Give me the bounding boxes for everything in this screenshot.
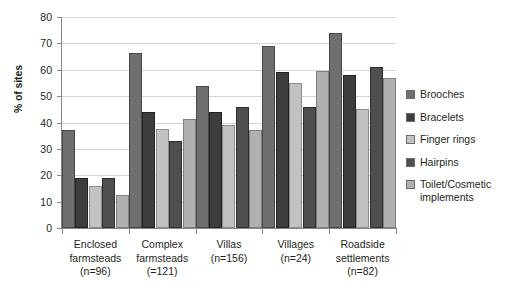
bar (383, 78, 396, 228)
legend-item-label: Bracelets (420, 111, 464, 124)
x-axis-line (61, 228, 397, 229)
bar-group (129, 17, 196, 228)
x-axis-tick-mark (262, 229, 263, 234)
bar (222, 125, 235, 228)
bar (262, 46, 275, 228)
legend-swatch-icon (406, 158, 415, 167)
x-axis-category-label: Roadsidesettlements(n=82) (323, 238, 402, 279)
bar (75, 178, 88, 228)
bar (276, 72, 289, 228)
chart-legend: BroochesBraceletsFinger ringsHairpinsToi… (406, 88, 528, 214)
legend-item: Finger rings (406, 133, 528, 146)
bar (289, 83, 302, 228)
y-axis-tick-label: 80 (28, 12, 52, 22)
bar (236, 107, 249, 228)
bar (356, 109, 369, 228)
y-axis-tick-label: 70 (28, 38, 52, 48)
bar (316, 71, 329, 228)
bar (156, 129, 169, 228)
y-axis-tick-label: 30 (28, 144, 52, 154)
y-axis-tick-label: 50 (28, 91, 52, 101)
legend-item-label: Toilet/Cosmetic implements (420, 178, 528, 204)
y-axis-tick-label: 0 (28, 223, 52, 233)
y-axis-tick-label: 20 (28, 170, 52, 180)
bar (116, 195, 129, 228)
bar (370, 67, 383, 228)
bar (169, 141, 182, 228)
legend-item: Brooches (406, 88, 528, 101)
bar-group (329, 17, 396, 228)
bar (329, 33, 342, 228)
x-axis-tick-mark (196, 229, 197, 234)
x-axis-label-line: settlements (323, 252, 402, 266)
legend-item-label: Finger rings (420, 133, 475, 146)
bar (89, 186, 102, 228)
legend-swatch-icon (406, 90, 415, 99)
bar (343, 75, 356, 228)
bar (129, 53, 142, 228)
x-axis-label-line: (=121) (123, 265, 202, 279)
bar (196, 86, 209, 228)
x-axis-label-line: (n=82) (323, 265, 402, 279)
bar (303, 107, 316, 228)
bar (102, 178, 115, 228)
y-axis-title: % of sites (12, 54, 24, 124)
bar (249, 130, 262, 228)
x-axis-tick-mark (329, 229, 330, 234)
x-axis-tick-mark (129, 229, 130, 234)
x-axis-tick-mark (396, 229, 397, 234)
bar-group (262, 17, 329, 228)
x-axis-tick-mark (62, 229, 63, 234)
legend-swatch-icon (406, 135, 415, 144)
bar (142, 112, 155, 228)
legend-item: Hairpins (406, 156, 528, 169)
x-axis-label-line: Roadside (323, 238, 402, 252)
legend-swatch-icon (406, 180, 415, 189)
bars-layer (62, 17, 396, 228)
bar-group (196, 17, 263, 228)
bar-chart-figure: % of sites 80706050403020100 Enclosedfar… (0, 0, 530, 305)
bar (209, 112, 222, 228)
legend-item: Bracelets (406, 111, 528, 124)
legend-item-label: Hairpins (420, 156, 459, 169)
y-axis-tick-label: 60 (28, 65, 52, 75)
legend-item-label: Brooches (420, 88, 464, 101)
bar (183, 119, 196, 228)
legend-swatch-icon (406, 113, 415, 122)
bar-group (62, 17, 129, 228)
y-axis-tick-label: 10 (28, 197, 52, 207)
y-axis-tick-label: 40 (28, 118, 52, 128)
bar (62, 130, 75, 228)
legend-item: Toilet/Cosmetic implements (406, 178, 528, 204)
